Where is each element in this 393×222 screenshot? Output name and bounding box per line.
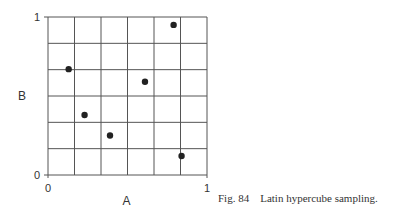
sample-point	[81, 112, 87, 118]
sample-point	[142, 79, 148, 85]
x-tick-label-max: 1	[204, 182, 210, 194]
sample-point	[107, 132, 113, 138]
y-tick-label-max: 1	[34, 11, 40, 23]
sample-point	[65, 66, 71, 72]
x-axis-label: A	[122, 194, 130, 208]
latin-hypercube-plot: 1001AB	[0, 0, 393, 222]
y-tick-label-min: 0	[34, 169, 40, 181]
y-axis-label: B	[18, 89, 26, 103]
x-tick-label-min: 0	[45, 182, 51, 194]
sample-point	[170, 22, 176, 28]
sample-point	[178, 153, 184, 159]
figure-caption: Fig. 84 Latin hypercube sampling.	[218, 192, 378, 204]
